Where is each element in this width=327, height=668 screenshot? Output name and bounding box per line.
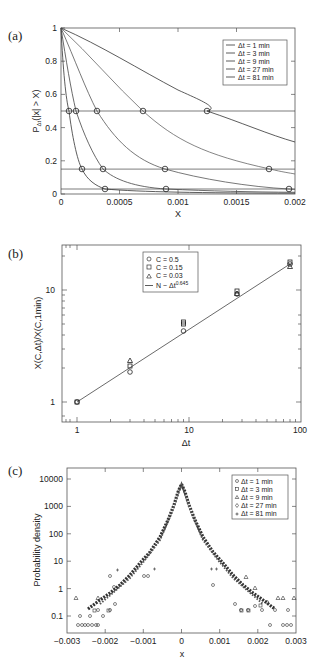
svg-text:0.0015: 0.0015 <box>224 197 250 207</box>
svg-text:Δt = 9 min: Δt = 9 min <box>238 58 270 65</box>
svg-text:1000: 1000 <box>44 501 63 511</box>
svg-text:Δt = 81 min: Δt = 81 min <box>241 510 277 517</box>
svg-text:Δt = 9 min: Δt = 9 min <box>241 494 273 501</box>
panel-c-label: (c) <box>8 463 22 478</box>
panel-c: (c) 10000 1000 100 10 1 0.1 −0.003 −0.00… <box>8 463 307 659</box>
panel-b-legend: C = 0.5 C = 0.15 C = 0.03 N ~ Δt0.645 <box>143 252 198 292</box>
panel-c-legend: Δt = 1 min Δt = 3 min Δt = 9 min Δt = 27… <box>232 475 288 519</box>
panel-c-ylabel: Probability density <box>32 513 42 587</box>
svg-text:1: 1 <box>52 23 57 33</box>
svg-text:100: 100 <box>293 425 307 435</box>
panel-b-tick-labels: 1 10 1 10 100 <box>46 285 308 435</box>
panel-a-xlabel: X <box>175 209 181 219</box>
svg-text:Δt = 27 min: Δt = 27 min <box>238 66 274 73</box>
panel-a-label: (a) <box>8 28 22 43</box>
panel-a-legend: Δt = 1 min Δt = 3 min Δt = 9 min Δt = 27… <box>223 40 287 85</box>
svg-text:−0.001: −0.001 <box>130 636 157 646</box>
svg-text:1: 1 <box>75 425 80 435</box>
panel-b-xlabel: Δt <box>182 438 191 448</box>
svg-text:Δt = 1 min: Δt = 1 min <box>241 478 273 485</box>
svg-text:0.2: 0.2 <box>45 156 57 166</box>
panel-a-markers <box>66 108 292 192</box>
svg-text:0.0005: 0.0005 <box>107 197 133 207</box>
svg-text:0.001: 0.001 <box>209 636 231 646</box>
svg-text:100: 100 <box>49 529 63 539</box>
svg-text:0: 0 <box>179 636 184 646</box>
svg-text:Δt = 81 min: Δt = 81 min <box>238 74 274 81</box>
svg-text:C = 0.15: C = 0.15 <box>156 264 183 271</box>
svg-text:0.002: 0.002 <box>247 636 269 646</box>
svg-text:0: 0 <box>52 189 57 199</box>
panel-a-ylabel: PΔt(|x| > X) <box>31 89 42 132</box>
svg-text:Δt = 3 min: Δt = 3 min <box>238 50 270 57</box>
svg-text:C = 0.5: C = 0.5 <box>156 256 179 263</box>
svg-text:0.002: 0.002 <box>284 197 306 207</box>
svg-text:10: 10 <box>46 285 56 295</box>
svg-text:0.001: 0.001 <box>167 197 189 207</box>
svg-text:Δt = 3 min: Δt = 3 min <box>241 486 273 493</box>
panel-c-xlabel: x <box>180 649 185 659</box>
svg-text:−0.002: −0.002 <box>92 636 119 646</box>
svg-text:10: 10 <box>184 425 194 435</box>
svg-text:0.6: 0.6 <box>45 89 57 99</box>
svg-text:0: 0 <box>59 197 64 207</box>
svg-text:−0.003: −0.003 <box>54 636 81 646</box>
svg-text:Δt = 1 min: Δt = 1 min <box>238 42 270 49</box>
panel-b-ylabel: X(C,Δt)/X(C,1min) <box>33 297 43 370</box>
panel-a: (a) 0 0.2 0.4 0.6 0.8 1 0 0.0005 0.001 0… <box>8 23 306 219</box>
panel-b: (b) 1 <box>8 245 307 448</box>
panel-b-label: (b) <box>8 246 23 261</box>
svg-text:1: 1 <box>50 397 55 407</box>
figure: (a) 0 0.2 0.4 0.6 0.8 1 0 0.0005 0.001 0… <box>0 0 327 668</box>
svg-text:10000: 10000 <box>39 474 63 484</box>
panel-a-reference-lines <box>61 111 295 189</box>
svg-text:1: 1 <box>58 584 63 594</box>
svg-text:C = 0.03: C = 0.03 <box>156 272 183 279</box>
svg-text:0.8: 0.8 <box>45 56 57 66</box>
svg-text:0.1: 0.1 <box>51 611 63 621</box>
svg-text:0.4: 0.4 <box>45 123 57 133</box>
svg-text:Δt = 27 min: Δt = 27 min <box>241 502 277 509</box>
svg-text:0.003: 0.003 <box>285 636 307 646</box>
panel-a-ytick-labels: 0 0.2 0.4 0.6 0.8 1 <box>45 23 57 199</box>
svg-text:10: 10 <box>54 556 64 566</box>
panel-a-xtick-labels: 0 0.0005 0.001 0.0015 0.002 <box>59 197 306 207</box>
